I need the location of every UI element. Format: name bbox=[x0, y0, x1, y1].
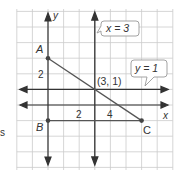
arrow-right-icon bbox=[161, 86, 168, 92]
callout-x-text: x = 3 bbox=[105, 22, 129, 34]
arrow-up-icon bbox=[92, 12, 98, 20]
point-a-label: A bbox=[35, 43, 43, 55]
arrow-down-icon bbox=[92, 157, 98, 165]
arrow-right-icon bbox=[161, 102, 168, 108]
callout-y-text: y = 1 bbox=[134, 62, 158, 74]
arrow-left-icon bbox=[20, 102, 27, 108]
cropped-edge-text: s bbox=[0, 128, 5, 138]
x-axis-label: x bbox=[162, 110, 169, 121]
point-b bbox=[46, 118, 51, 123]
arrow-left-icon bbox=[20, 86, 27, 92]
point-c-label: C bbox=[143, 124, 151, 136]
arrow-up-icon bbox=[45, 13, 51, 21]
x-tick-4: 4 bbox=[107, 109, 113, 120]
point-a bbox=[46, 56, 51, 61]
x-axis bbox=[20, 102, 168, 108]
callout-x-equals-3: x = 3 bbox=[97, 21, 139, 36]
point-c bbox=[139, 118, 144, 123]
coordinate-plane: A B C y x 2 4 2 (3, 1) x = 3 y = 1 bbox=[0, 0, 184, 181]
x-tick-2: 2 bbox=[76, 109, 82, 120]
callout-y-equals-1: y = 1 bbox=[131, 60, 167, 86]
intersection-label: (3, 1) bbox=[97, 75, 122, 87]
y-tick-2: 2 bbox=[38, 69, 44, 80]
arrow-down-icon bbox=[45, 157, 51, 165]
point-b-label: B bbox=[36, 121, 43, 133]
y-axis-label: y bbox=[52, 10, 59, 21]
